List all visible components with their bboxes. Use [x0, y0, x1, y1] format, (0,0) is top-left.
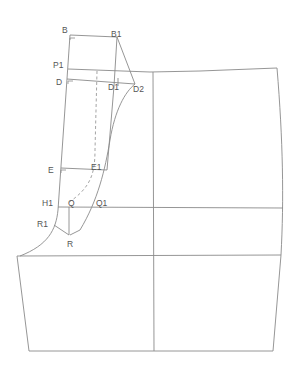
line-crotch [17, 255, 281, 256]
label-B1: B1 [111, 30, 121, 39]
line-D-D2 [67, 79, 135, 84]
label-Q: Q [68, 199, 75, 208]
label-Q1: Q1 [96, 199, 107, 208]
right-angle-D [68, 81, 73, 84]
label-E: E [48, 166, 54, 175]
line-B1-D1 [114, 37, 117, 86]
right-angle-E [61, 170, 66, 173]
line-D1-E1 [107, 86, 114, 170]
line-R1-R [54, 225, 69, 235]
label-D2: D2 [133, 85, 144, 94]
pattern-draft-diagram [0, 0, 295, 379]
label-P1: P1 [53, 61, 63, 70]
label-H1: H1 [42, 199, 53, 208]
line-B1-D2 [117, 37, 135, 84]
label-R1: R1 [37, 220, 48, 229]
right-angle-B [70, 38, 75, 40]
crotch-curve [20, 210, 58, 256]
line-D2-front-curve [70, 84, 135, 235]
dashed-guide [68, 71, 97, 203]
label-E1: E1 [91, 163, 101, 172]
label-D1: D1 [108, 83, 119, 92]
label-R: R [67, 240, 73, 249]
line-left-outer [17, 256, 29, 351]
label-B: B [62, 26, 68, 35]
line-P1-waist [68, 68, 277, 72]
line-center-crease [153, 72, 154, 351]
label-D: D [56, 78, 62, 87]
line-right-side [273, 68, 283, 351]
line-B-B1 [70, 35, 117, 37]
